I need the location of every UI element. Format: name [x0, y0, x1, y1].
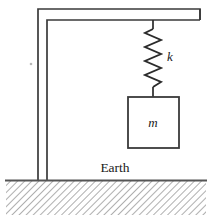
spring-constant-label: k [167, 49, 173, 64]
earth-label: Earth [100, 160, 129, 175]
ground-assembly [5, 181, 207, 216]
diagram-canvas: k m Earth [0, 0, 213, 222]
mass-label: m [148, 115, 157, 130]
scan-artifact-speck [30, 63, 33, 66]
rigid-support-structure [30, 9, 200, 180]
spring-assembly [145, 20, 161, 97]
physics-diagram-mass-spring-system: k m Earth [0, 0, 213, 222]
spring-coil [145, 29, 161, 87]
ground-hatching [6, 181, 206, 215]
support-outer-edge [38, 9, 200, 180]
